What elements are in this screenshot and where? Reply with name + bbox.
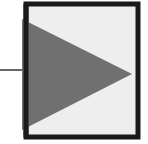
diagram-canvas [0,0,148,144]
